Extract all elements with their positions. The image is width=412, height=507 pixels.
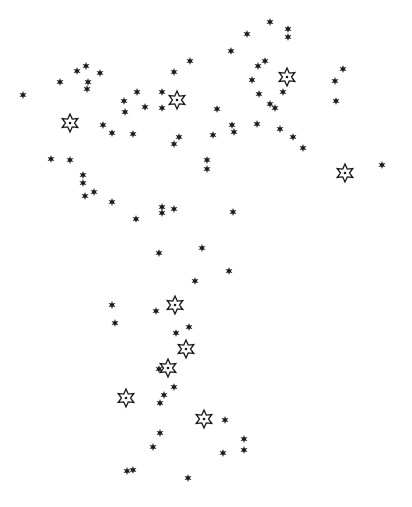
- filled-star-icon: [112, 319, 119, 327]
- filled-star-icon: [157, 399, 164, 407]
- filled-star-icon: [74, 67, 81, 75]
- filled-star-icon: [133, 215, 140, 223]
- filled-star-icon: [20, 91, 27, 99]
- filled-star-icon: [82, 192, 89, 200]
- filled-star-icon: [262, 57, 269, 65]
- filled-star-icon: [171, 205, 178, 213]
- outlined-star-icon: [337, 164, 353, 182]
- filled-star-icon: [150, 443, 157, 451]
- filled-star-icon: [285, 33, 292, 41]
- filled-star-icon: [222, 416, 229, 424]
- filled-star-icon: [156, 249, 163, 257]
- filled-star-icon: [67, 156, 74, 164]
- filled-star-icon: [229, 121, 236, 129]
- filled-star-icon: [255, 62, 262, 70]
- filled-star-icon: [134, 88, 141, 96]
- filled-star-icon: [226, 267, 233, 275]
- filled-star-icon: [379, 161, 386, 169]
- filled-star-icon: [204, 165, 211, 173]
- filled-star-icon: [124, 467, 131, 475]
- filled-star-icon: [241, 435, 248, 443]
- filled-star-icon: [91, 188, 98, 196]
- filled-star-icon: [109, 301, 116, 309]
- filled-star-icon: [176, 133, 183, 141]
- filled-star-icon: [300, 144, 307, 152]
- filled-star-icon: [210, 131, 217, 139]
- filled-star-icon: [285, 25, 292, 33]
- filled-star-icon: [340, 65, 347, 73]
- filled-star-icon: [171, 383, 178, 391]
- filled-star-icon: [231, 128, 238, 136]
- outlined-star-icon: [118, 389, 134, 407]
- filled-star-icon: [204, 156, 211, 164]
- filled-star-icon: [142, 103, 149, 111]
- filled-star-icon: [122, 108, 129, 116]
- filled-star-icon: [48, 155, 55, 163]
- outlined-star-icon: [178, 340, 194, 358]
- filled-star-icon: [100, 121, 107, 129]
- outlined-star-icon: [196, 410, 212, 428]
- filled-star-icon: [161, 391, 168, 399]
- filled-star-icon: [280, 88, 287, 96]
- filled-star-icon: [130, 466, 137, 474]
- filled-star-icon: [192, 277, 199, 285]
- filled-star-icon: [187, 57, 194, 65]
- filled-star-icon: [80, 179, 87, 187]
- filled-star-icon: [241, 446, 248, 454]
- filled-star-icon: [159, 104, 166, 112]
- filled-star-icon: [153, 307, 160, 315]
- outlined-star-icon: [167, 296, 183, 314]
- outlined-star-icon: [169, 91, 185, 109]
- filled-star-icon: [185, 474, 192, 482]
- outlined-star-icon: [160, 359, 176, 377]
- filled-star-icon: [159, 209, 166, 217]
- filled-star-icon: [249, 76, 256, 84]
- filled-star-icon: [214, 105, 221, 113]
- star-field: [0, 0, 412, 507]
- filled-star-icon: [173, 329, 180, 337]
- filled-star-icon: [333, 97, 340, 105]
- outlined-star-icon: [279, 68, 295, 86]
- filled-star-icon: [159, 88, 166, 96]
- filled-star-icon: [244, 30, 251, 38]
- filled-star-icon: [84, 85, 91, 93]
- filled-star-icon: [228, 47, 235, 55]
- filled-star-icon: [199, 244, 206, 252]
- filled-star-icon: [97, 69, 104, 77]
- filled-star-icon: [80, 171, 87, 179]
- filled-star-icon: [254, 120, 261, 128]
- filled-star-icon: [290, 133, 297, 141]
- filled-star-icon: [109, 198, 116, 206]
- outlined-stars: [62, 68, 353, 428]
- filled-star-icon: [267, 18, 274, 26]
- filled-star-icon: [130, 130, 137, 138]
- outlined-star-icon: [62, 114, 78, 132]
- filled-star-icon: [186, 323, 193, 331]
- filled-star-icon: [256, 90, 263, 98]
- filled-star-icon: [171, 68, 178, 76]
- filled-star-icon: [171, 140, 178, 148]
- filled-star-icon: [230, 208, 237, 216]
- filled-star-icon: [57, 78, 64, 86]
- filled-star-icon: [277, 125, 284, 133]
- filled-star-icon: [109, 129, 116, 137]
- filled-star-icon: [121, 97, 128, 105]
- filled-star-icon: [332, 77, 339, 85]
- filled-star-icon: [157, 429, 164, 437]
- star-chart: [0, 0, 412, 507]
- filled-star-icon: [83, 62, 90, 70]
- filled-star-icon: [85, 78, 92, 86]
- filled-star-icon: [220, 449, 227, 457]
